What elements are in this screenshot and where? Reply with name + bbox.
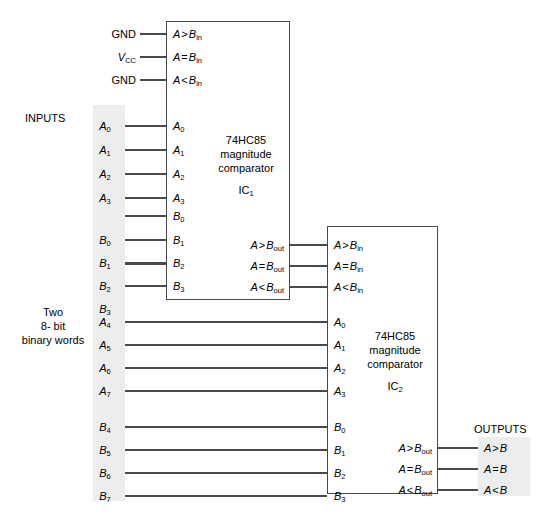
binary-words-label: Two 8- bit binary words: [18, 305, 88, 347]
power-label-gnd-bottom: GND: [112, 75, 136, 86]
final-output-equal: A=B: [484, 464, 507, 475]
bus-label-b4: B4: [99, 422, 111, 433]
bus-label-a3: A3: [99, 193, 111, 204]
ic1-function-line1: magnitude: [207, 147, 285, 161]
ic2-cascade-in-greater: A>Bin: [334, 240, 363, 251]
ic1-out-equal: A=Bout: [250, 261, 284, 272]
ic2-function-line1: magnitude: [356, 343, 434, 357]
ic1-designator: IC1: [207, 183, 285, 199]
bus-label-b6: B6: [99, 468, 111, 479]
bus-label-b2: B2: [99, 281, 111, 292]
ic1-pin-a3: A3: [173, 193, 185, 204]
ic2-pin-b2: B2: [334, 468, 346, 479]
bus-label-b1: B1: [99, 258, 111, 269]
ic2-out-less: A<Bout: [398, 485, 432, 496]
bus-label-a5: A5: [99, 340, 111, 351]
bus-label-a0: A0: [99, 121, 111, 132]
outputs-group-label: OUTPUTS: [474, 424, 527, 435]
bus-label-a6: A6: [99, 363, 111, 374]
ic1-pin-a0: A0: [173, 121, 185, 132]
bus-label-a1: A1: [99, 145, 111, 156]
ic2-function-line2: comparator: [356, 357, 434, 371]
ic1-pin-b1: B1: [173, 235, 185, 246]
ic1-part-number: 74HC85: [207, 133, 285, 147]
ic2-pin-a0: A0: [334, 317, 346, 328]
inputs-group-label: INPUTS: [25, 113, 65, 124]
ic2-pin-a1: A1: [334, 340, 346, 351]
ic2-spacer: [356, 371, 434, 379]
binary-words-line1: Two: [18, 305, 88, 319]
final-output-less: A<B: [484, 485, 507, 496]
ic1-cascade-in-equal: A=Bin: [173, 52, 202, 63]
ic2-cascade-in-equal: A=Bin: [334, 261, 363, 272]
ic1-cascade-in-less: A<Bin: [173, 75, 202, 86]
bus-label-a2: A2: [99, 169, 111, 180]
ic1-out-greater: A>Bout: [250, 240, 284, 251]
bus-label-b0: B0: [99, 235, 111, 246]
wire-layer: [0, 0, 538, 513]
bus-label-b3: B3: [99, 304, 111, 315]
ic2-designator: IC2: [356, 379, 434, 395]
bus-label-a7: A7: [99, 386, 111, 397]
ic2-part-block: 74HC85 magnitude comparator IC2: [356, 329, 434, 395]
binary-words-line3: binary words: [18, 333, 88, 347]
ic2-pin-b3: B3: [334, 491, 346, 502]
bus-label-b5: B5: [99, 445, 111, 456]
ic2-pin-a3: A3: [334, 386, 346, 397]
final-output-greater: A>B: [484, 443, 507, 454]
ic1-out-less: A<Bout: [250, 282, 284, 293]
ic2-cascade-in-less: A<Bin: [334, 282, 363, 293]
ic1-pin-a1: A1: [173, 145, 185, 156]
ic2-part-number: 74HC85: [356, 329, 434, 343]
power-label-vcc: VCC: [118, 52, 136, 63]
ic1-pin-a2: A2: [173, 169, 185, 180]
ic2-pin-b0: B0: [334, 422, 346, 433]
bus-label-a4: A4: [99, 317, 111, 328]
ic1-pin-b3: B3: [173, 281, 185, 292]
ic1-cascade-in-greater: A>Bin: [173, 29, 202, 40]
ic1-function-line2: comparator: [207, 161, 285, 175]
ic1-part-block: 74HC85 magnitude comparator IC1: [207, 133, 285, 199]
binary-words-line2: 8- bit: [18, 319, 88, 333]
ic1-spacer: [207, 175, 285, 183]
power-label-gnd-top: GND: [112, 29, 136, 40]
ic2-pin-a2: A2: [334, 363, 346, 374]
bus-label-b7: B7: [99, 491, 111, 502]
ic1-pin-b0: B0: [173, 211, 185, 222]
ic2-pin-b1: B1: [334, 445, 346, 456]
ic2-out-equal: A=Bout: [398, 464, 432, 475]
ic1-pin-b2: B2: [173, 258, 185, 269]
circuit-diagram-canvas: GND VCC GND A>Bin A=Bin A<Bin A0 A1 A2 A…: [0, 0, 538, 513]
ic2-out-greater: A>Bout: [398, 443, 432, 454]
